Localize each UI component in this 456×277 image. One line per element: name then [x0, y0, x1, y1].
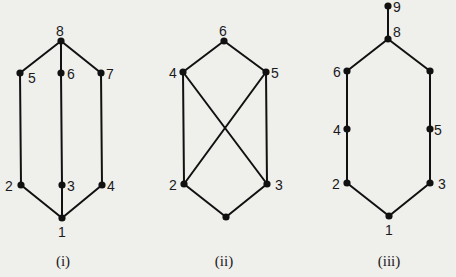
diagram-iii: 12345689(iii): [332, 0, 446, 270]
node-label: 2: [5, 178, 13, 194]
node-4: [98, 181, 105, 188]
node-2: [343, 179, 350, 186]
node-4: [343, 125, 350, 132]
edge-3-1: [389, 183, 430, 216]
edge-2-1: [347, 183, 389, 216]
node-2: [17, 181, 24, 188]
node-label: 8: [393, 24, 401, 40]
node-3: [426, 179, 433, 186]
edge-2-1: [21, 185, 62, 218]
node-label: 1: [385, 222, 393, 238]
node-7: [426, 67, 433, 74]
node-9: [384, 2, 391, 9]
node-1: [222, 213, 229, 220]
edge-3-1: [226, 184, 267, 217]
node-label: 5: [28, 70, 36, 86]
node-3: [58, 181, 65, 188]
node-8: [384, 35, 391, 42]
node-7: [97, 69, 104, 76]
edge-7-4: [101, 73, 102, 185]
edge-2-1: [184, 184, 226, 217]
edge-6-3: [61, 73, 62, 185]
diagram-caption: (i): [56, 253, 70, 270]
node-label: 3: [438, 176, 446, 192]
diagram-caption: (ii): [215, 253, 233, 270]
node-4: [179, 68, 186, 75]
node-label: 3: [275, 177, 283, 193]
node-6: [343, 67, 350, 74]
node-6: [57, 69, 64, 76]
diagram-caption: (iii): [378, 253, 401, 270]
node-1: [58, 214, 65, 221]
node-label: 4: [333, 122, 341, 138]
node-5: [262, 68, 269, 75]
node-label: 1: [58, 224, 66, 240]
node-label: 4: [107, 178, 115, 194]
diagram-ii: 23456(ii): [169, 23, 283, 270]
edge-5-2: [20, 73, 21, 185]
node-label: 2: [332, 176, 340, 192]
node-label: 6: [219, 23, 227, 39]
node-label: 6: [67, 66, 75, 82]
node-label: 3: [67, 178, 75, 194]
edge-4-2: [183, 72, 184, 184]
node-label: 5: [271, 65, 279, 81]
diagram-i: 12345678(i): [5, 23, 115, 270]
node-1: [385, 212, 392, 219]
node-label: 8: [56, 23, 64, 39]
node-label: 4: [169, 65, 177, 81]
node-label: 2: [169, 177, 177, 193]
edge-6-5: [224, 41, 266, 72]
hasse-diagrams-figure: 12345678(i) 23456(ii) 12345689(iii): [0, 0, 456, 277]
node-2: [180, 180, 187, 187]
edge-6-4: [183, 41, 224, 72]
node-label: 5: [434, 122, 442, 138]
node-3: [263, 180, 270, 187]
node-label: 6: [333, 64, 341, 80]
edge-8-6: [347, 39, 388, 71]
node-label: 9: [393, 0, 401, 15]
edge-5-3: [266, 72, 267, 184]
node-label: 7: [106, 66, 114, 82]
edge-8-5: [20, 41, 61, 73]
node-5: [426, 125, 433, 132]
edge-8-7: [388, 39, 430, 71]
node-5: [16, 69, 23, 76]
